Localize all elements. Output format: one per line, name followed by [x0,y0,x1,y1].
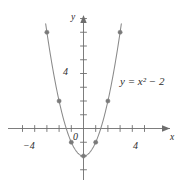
y-axis-arrowhead [80,15,86,23]
data-point-marker [106,99,110,103]
y-tick-label-4: 4 [63,66,68,77]
data-point-marker [118,30,122,34]
x-tick-label-pos4: 4 [133,140,138,151]
equation-label: y = x² − 2 [120,76,164,87]
data-point-marker [94,140,98,144]
graph-canvas [0,0,182,186]
data-point-marker [45,30,49,34]
axes-group [8,15,170,180]
data-point-marker [81,154,85,158]
x-tick-label-neg4: −4 [23,140,35,151]
y-axis-label: y [71,13,75,23]
graph-figure: y = x² − 2 x y −4 0 4 4 [0,0,182,186]
data-point-marker [57,99,61,103]
x-axis-label: x [170,133,174,143]
x-axis-arrowhead [162,125,170,131]
origin-label: 0 [73,131,78,142]
